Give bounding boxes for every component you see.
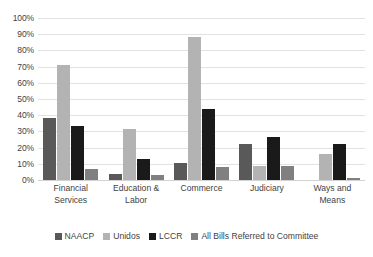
legend-swatch-icon <box>103 233 110 240</box>
chart-legend: NAACPUnidosLCCRAll Bills Referred to Com… <box>0 232 373 241</box>
x-axis-label: Ways and Means <box>300 183 365 206</box>
bar <box>109 174 122 180</box>
bar-group <box>234 18 299 180</box>
y-axis-tick-label: 90% <box>17 30 34 39</box>
legend-label: Unidos <box>113 232 140 241</box>
x-axis-label: Judiciary <box>234 183 299 206</box>
x-axis-labels: Financial ServicesEducation & LaborComme… <box>38 183 365 206</box>
x-axis-label: Financial Services <box>38 183 103 206</box>
plot-area: 100%90%80%70%60%50%40%30%20%10%0% Financ… <box>0 0 373 225</box>
legend-swatch-icon <box>55 233 62 240</box>
bar-group <box>38 18 103 180</box>
bar <box>85 169 98 180</box>
bar <box>174 163 187 180</box>
y-axis-tick-label: 80% <box>17 46 34 55</box>
legend-swatch-icon <box>149 233 156 240</box>
legend-item[interactable]: NAACP <box>55 232 95 241</box>
legend-label: NAACP <box>65 232 95 241</box>
bar <box>43 118 56 180</box>
bar <box>253 166 266 180</box>
y-axis-tick-label: 60% <box>17 79 34 88</box>
bar <box>151 175 164 180</box>
legend-label: LCCR <box>159 232 182 241</box>
bars-layer <box>38 18 365 180</box>
bar <box>57 65 70 180</box>
x-axis-label: Commerce <box>169 183 234 206</box>
bar <box>123 129 136 180</box>
y-axis-tick-label: 10% <box>17 160 34 169</box>
gridline <box>38 180 365 181</box>
bar <box>188 37 201 180</box>
y-axis-tick-label: 20% <box>17 143 34 152</box>
bar-group <box>169 18 234 180</box>
bar-group <box>300 18 365 180</box>
bar <box>281 166 294 180</box>
legend-item[interactable]: Unidos <box>103 232 140 241</box>
bar <box>239 144 252 180</box>
bar-group <box>103 18 168 180</box>
y-axis-tick-label: 30% <box>17 127 34 136</box>
y-axis-tick-label: 40% <box>17 111 34 120</box>
bar <box>137 159 150 180</box>
legend-swatch-icon <box>191 233 198 240</box>
bar <box>267 137 280 180</box>
bar-chart: 100%90%80%70%60%50%40%30%20%10%0% Financ… <box>0 0 373 257</box>
y-axis-tick-label: 0% <box>22 176 34 185</box>
y-axis-tick-label: 70% <box>17 62 34 71</box>
bar <box>71 126 84 180</box>
bar <box>319 154 332 180</box>
y-axis-tick-label: 50% <box>17 95 34 104</box>
y-axis: 100%90%80%70%60%50%40%30%20%10%0% <box>0 18 37 180</box>
legend-label: All Bills Referred to Committee <box>201 232 318 241</box>
bar <box>202 109 215 180</box>
legend-item[interactable]: All Bills Referred to Committee <box>191 232 318 241</box>
bar <box>333 144 346 180</box>
legend-item[interactable]: LCCR <box>149 232 182 241</box>
x-axis-label: Education & Labor <box>103 183 168 206</box>
bar <box>216 167 229 180</box>
y-axis-tick-label: 100% <box>13 14 34 23</box>
bar <box>347 178 360 180</box>
